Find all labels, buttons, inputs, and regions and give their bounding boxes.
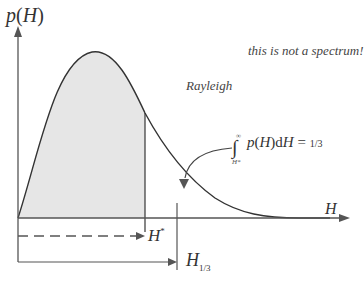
annotation-note: this is not a spectrum! — [248, 43, 364, 59]
integral-equals: = — [294, 134, 310, 150]
integral-sign-icon: ∫ — [232, 136, 237, 159]
integral-h: H — [260, 134, 271, 150]
x-axis-arrow-icon — [339, 214, 350, 222]
x-axis-label: H — [325, 200, 337, 218]
integral-expression: p(H)dH = 1/3 — [247, 134, 322, 151]
y-axis-label: p(H) — [6, 4, 44, 27]
integral-p: p — [247, 134, 255, 150]
h13-label: H1/3 — [186, 250, 211, 273]
integral-value: 1/3 — [310, 138, 323, 149]
h13-h: H — [186, 250, 199, 270]
curve-label-rayleigh: Rayleigh — [186, 78, 232, 94]
integral-lower-limit: H* — [232, 158, 241, 166]
integral-d: d — [275, 134, 283, 150]
hstar-label: H* — [148, 226, 165, 246]
y-axis-label-h: H — [23, 4, 37, 26]
integral-pointer — [185, 148, 232, 178]
hstar-h: H — [148, 226, 160, 245]
integral-dh: H — [283, 134, 294, 150]
y-axis-label-p: p — [6, 4, 16, 26]
paren-open: ( — [16, 4, 23, 26]
integral-pointer-arrowhead-icon — [179, 179, 189, 189]
h13-arrowhead-icon — [168, 258, 177, 266]
hstar-sup: * — [160, 226, 165, 236]
h13-sub: 1/3 — [199, 263, 211, 273]
paren-close: ) — [37, 4, 44, 26]
hstar-arrowhead-icon — [136, 232, 145, 240]
y-axis-arrow-icon — [14, 26, 22, 37]
